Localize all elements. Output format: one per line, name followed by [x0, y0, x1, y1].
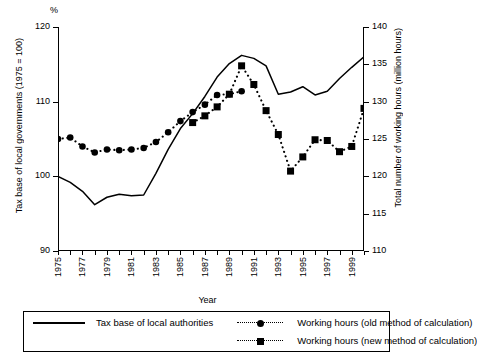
data-point-circle	[67, 134, 74, 141]
left-tick	[53, 102, 58, 103]
series-layer	[58, 27, 364, 251]
data-point-circle	[189, 109, 196, 116]
data-point-circle	[116, 147, 123, 154]
x-tick	[82, 251, 83, 255]
right-tick-label: 130	[372, 97, 387, 106]
data-point-square	[287, 168, 294, 175]
x-tick	[364, 251, 365, 255]
data-point-circle	[91, 149, 98, 156]
x-tick	[254, 251, 255, 255]
x-tick	[156, 251, 157, 255]
data-point-circle	[177, 118, 184, 125]
data-point-square	[263, 107, 270, 114]
x-tick	[303, 251, 304, 255]
x-tick	[180, 251, 181, 255]
legend-label-working-hours-new: Working hours (new method of calculation…	[297, 336, 477, 346]
data-point-square	[348, 143, 355, 150]
right-tick-label: 110	[372, 246, 386, 255]
x-tick-label: 1987	[201, 257, 210, 277]
right-tick	[364, 214, 369, 215]
circle-marker-icon	[257, 320, 264, 327]
left-tick	[53, 176, 58, 177]
x-tick-label: 1991	[250, 257, 259, 277]
data-point-square	[226, 91, 233, 98]
x-tick-label: 1983	[152, 257, 161, 277]
left-tick-label: 100	[35, 171, 50, 180]
x-tick-label: 1995	[299, 257, 308, 277]
legend-swatch-solid-line	[31, 317, 87, 329]
data-point-circle	[128, 146, 135, 153]
data-point-square	[238, 62, 245, 69]
data-point-square	[250, 81, 257, 88]
x-tick-label: 1975	[54, 257, 63, 277]
x-tick-label: 1981	[127, 257, 136, 277]
x-tick	[340, 251, 341, 255]
x-tick	[58, 251, 59, 255]
series-line-0	[58, 55, 364, 204]
data-point-circle	[79, 143, 86, 150]
x-tick	[119, 251, 120, 255]
plot-area: 90100110120 110115120125130135140 197519…	[58, 27, 364, 251]
data-point-circle	[202, 101, 209, 108]
right-tick	[364, 64, 369, 65]
x-tick	[217, 251, 218, 255]
x-tick-label: 1977	[78, 257, 87, 277]
right-tick-label: 125	[372, 134, 387, 143]
x-tick-label: 1993	[274, 257, 283, 277]
data-point-square	[214, 103, 221, 110]
bottom-axis-line	[58, 250, 364, 251]
legend-swatch-dotted-square	[232, 335, 288, 347]
x-tick-label: 1989	[225, 257, 234, 277]
x-tick-label: 1979	[103, 257, 112, 277]
legend-label-working-hours-old: Working hours (old method of calculation…	[297, 318, 472, 328]
percent-unit-label: %	[50, 6, 58, 15]
x-tick	[107, 251, 108, 255]
data-point-circle	[140, 145, 147, 152]
data-point-circle	[153, 139, 160, 146]
series-line-2	[193, 66, 364, 171]
x-tick	[327, 251, 328, 255]
data-point-square	[312, 136, 319, 143]
data-point-circle	[165, 129, 172, 136]
x-tick	[229, 251, 230, 255]
x-tick	[70, 251, 71, 255]
data-point-circle	[214, 92, 221, 99]
data-point-circle	[238, 88, 245, 95]
right-tick-label: 140	[372, 22, 387, 31]
x-axis-title: Year	[0, 296, 415, 305]
data-point-square	[336, 148, 343, 155]
right-axis-title: Total number of working hours (million h…	[393, 28, 403, 208]
x-tick	[131, 251, 132, 255]
legend-swatch-dotted-circle	[232, 317, 288, 329]
left-axis-title: Tax base of local governments (1975 = 10…	[14, 38, 24, 213]
x-tick	[193, 251, 194, 255]
right-tick	[364, 27, 369, 28]
x-tick	[95, 251, 96, 255]
legend-entry-tax-base: Tax base of local authorities	[31, 317, 213, 329]
x-tick	[168, 251, 169, 255]
left-axis-line	[58, 27, 59, 251]
left-tick-label: 120	[35, 22, 50, 31]
data-point-circle	[104, 146, 111, 153]
data-point-square	[201, 112, 208, 119]
left-tick-label: 110	[36, 97, 50, 106]
series-line-1	[58, 91, 242, 152]
right-tick-label: 135	[372, 59, 387, 68]
data-point-square	[275, 131, 282, 138]
legend-row-1: Tax base of local authorities Working ho…	[24, 314, 389, 332]
x-tick-label: 1999	[348, 257, 357, 277]
data-point-square	[299, 153, 306, 160]
legend-row-2: Tax base of local authorities Working ho…	[24, 332, 389, 350]
data-point-square	[324, 137, 331, 144]
left-tick-label: 90	[40, 246, 50, 255]
legend-label-tax-base: Tax base of local authorities	[96, 318, 213, 328]
x-tick	[242, 251, 243, 255]
x-tick	[315, 251, 316, 255]
x-tick-label: 1985	[176, 257, 185, 277]
x-tick	[291, 251, 292, 255]
square-marker-icon	[257, 338, 264, 345]
right-tick	[364, 102, 369, 103]
left-tick	[53, 27, 58, 28]
x-tick-label: 1997	[323, 257, 332, 277]
